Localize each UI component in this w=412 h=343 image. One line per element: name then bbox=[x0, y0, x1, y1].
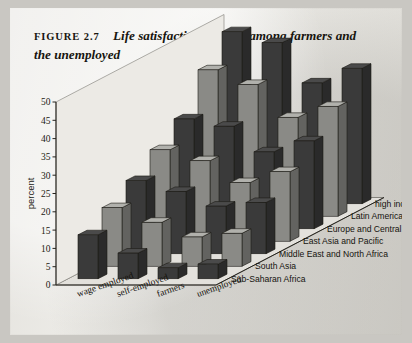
depth-axis-label: high income bbox=[375, 199, 402, 209]
bar-3d bbox=[78, 230, 107, 279]
depth-axis-label: Middle East and North Africa bbox=[279, 249, 388, 259]
y-axis-tick: 40 bbox=[41, 134, 51, 144]
y-axis-title: percent bbox=[25, 177, 36, 209]
chart-canvas: 05101520253035404550percentwage employed… bbox=[10, 8, 402, 335]
y-axis-tick: 0 bbox=[46, 280, 51, 290]
depth-axis-label: Latin America and the Caribbean bbox=[351, 211, 402, 221]
y-axis-tick: 10 bbox=[41, 244, 51, 254]
scanned-page: FIGURE 2.7 Life satisfaction is lower am… bbox=[10, 8, 402, 335]
y-axis-tick: 50 bbox=[41, 97, 51, 107]
y-axis-tick: 30 bbox=[41, 171, 51, 181]
page-background: FIGURE 2.7 Life satisfaction is lower am… bbox=[0, 0, 412, 343]
y-axis-tick: 15 bbox=[41, 226, 51, 236]
depth-axis-label: East Asia and Pacific bbox=[303, 236, 384, 246]
depth-axis-label: Sub-Saharan Africa bbox=[231, 274, 306, 284]
y-axis-tick: 35 bbox=[41, 152, 51, 162]
depth-axis-label: Europe and Central Asia bbox=[327, 224, 402, 234]
bar-3d bbox=[198, 260, 227, 279]
y-axis-tick: 25 bbox=[41, 189, 51, 199]
y-axis-tick: 5 bbox=[46, 262, 51, 272]
y-axis-tick: 45 bbox=[41, 116, 51, 126]
depth-axis-label: South Asia bbox=[255, 261, 296, 271]
y-axis-tick: 20 bbox=[41, 207, 51, 217]
bar-chart-3d: 05101520253035404550percentwage employed… bbox=[10, 8, 402, 335]
